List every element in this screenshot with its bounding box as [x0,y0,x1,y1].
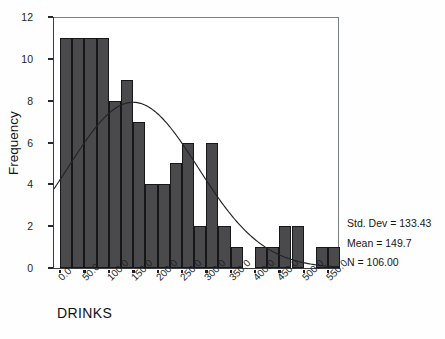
y-axis-tick-label: 10 [11,54,33,64]
y-axis-tick [48,225,53,227]
y-axis-title: Frequency [6,111,21,175]
y-axis-tick-label: 12 [11,12,33,22]
y-axis-tick [48,142,53,144]
normal-distribution-curve [54,17,339,268]
x-axis-title: DRINKS [57,305,112,321]
std-dev-label: Std. Dev = 133.43 [347,214,431,234]
y-axis-tick [48,58,53,60]
y-axis-tick [48,183,53,185]
y-axis-tick [48,16,53,18]
y-axis-tick [48,267,53,269]
statistics-annotation: Std. Dev = 133.43 Mean = 149.7 N = 106.0… [347,214,431,273]
mean-label: Mean = 149.7 [347,234,431,254]
y-axis-tick-label: 8 [11,96,33,106]
histogram-figure: 024681012 0.050.0100.0150.0200.0250.0300… [0,0,445,339]
y-axis-tick-label: 2 [11,221,33,231]
sample-size-label: N = 106.00 [347,253,431,273]
y-axis-tick [48,100,53,102]
y-axis-tick-label: 4 [11,179,33,189]
y-axis-tick-label: 0 [11,263,33,273]
